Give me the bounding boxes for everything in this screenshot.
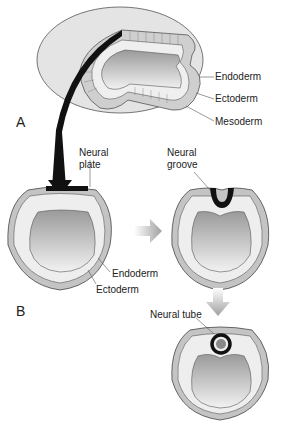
label-neural-groove-2: groove xyxy=(167,159,198,170)
embryo-neural-tube xyxy=(172,327,269,420)
embryo-neural-groove xyxy=(172,188,269,290)
label-neural-tube: Neural tube xyxy=(150,309,202,320)
label-neural-plate-1: Neural xyxy=(79,147,108,158)
label-endoderm-mid: Endoderm xyxy=(112,268,158,279)
label-neural-groove-1: Neural xyxy=(167,147,196,158)
panel-label-b: B xyxy=(16,303,25,319)
label-endoderm-top: Endoderm xyxy=(215,71,261,82)
progression-arrow-down xyxy=(206,288,230,316)
label-ectoderm-top: Ectoderm xyxy=(215,93,258,104)
label-mesoderm-top: Mesoderm xyxy=(215,116,262,127)
embryo-3d xyxy=(37,7,203,113)
neurulation-diagram xyxy=(0,0,284,432)
label-neural-plate-2: plate xyxy=(79,159,101,170)
progression-arrow-right xyxy=(134,219,162,243)
label-ectoderm-mid: Ectoderm xyxy=(96,284,139,295)
panel-label-a: A xyxy=(16,114,25,130)
embryo-neural-plate xyxy=(8,186,112,290)
